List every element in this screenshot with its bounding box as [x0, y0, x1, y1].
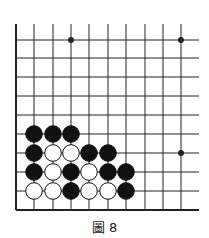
star-point	[178, 37, 184, 43]
black-stone	[81, 145, 98, 162]
white-stone	[45, 145, 62, 162]
star-point	[178, 150, 184, 156]
black-stone	[63, 164, 80, 181]
white-stone	[26, 183, 43, 200]
board-grid	[16, 24, 199, 210]
black-stone	[63, 126, 80, 143]
black-stone	[63, 183, 80, 200]
white-stone	[45, 183, 62, 200]
stones	[26, 126, 135, 200]
figure-caption: 圖 8	[0, 220, 209, 236]
black-stone	[26, 126, 43, 143]
white-stone	[45, 164, 62, 181]
black-stone	[26, 145, 43, 162]
star-point	[68, 37, 74, 43]
black-stone	[118, 183, 135, 200]
black-stone	[26, 164, 43, 181]
go-board	[0, 0, 209, 238]
black-stone	[45, 126, 62, 143]
black-stone	[118, 164, 135, 181]
black-stone	[100, 164, 117, 181]
white-stone	[81, 183, 98, 200]
white-stone	[63, 145, 80, 162]
white-stone	[81, 164, 98, 181]
black-stone	[100, 145, 117, 162]
white-stone	[100, 183, 117, 200]
